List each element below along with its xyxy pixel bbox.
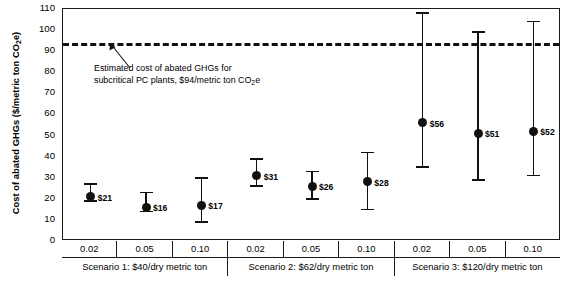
annotation-line-2: subcritical PC plants, $94/metric ton CO…	[94, 74, 260, 87]
data-point-label: $56	[430, 119, 444, 129]
error-bar-cap-top	[195, 177, 208, 179]
annotation-line-1: Estimated cost of abated GHGs for	[94, 62, 260, 74]
annotation-line-2-pre: subcritical PC plants, $94/metric ton CO	[94, 75, 251, 85]
plot-area: $21$16$17$31$26$28$56$51$52	[62, 8, 560, 240]
x-group-label: Scenario 1: $40/dry metric ton	[62, 258, 227, 276]
y-tick-label: 60	[29, 108, 55, 118]
error-bar-cap-bottom	[527, 175, 540, 177]
x-tick-label: 0.02	[394, 241, 449, 257]
data-point-marker	[308, 182, 317, 191]
data-point-label: $51	[485, 129, 499, 139]
y-tick-label: 100	[29, 24, 55, 34]
reference-line-annotation: Estimated cost of abated GHGs for subcri…	[94, 62, 260, 87]
data-point-marker	[363, 177, 372, 186]
error-bar-cap-top	[140, 192, 153, 194]
reference-line	[63, 43, 559, 46]
x-axis-tick-labels: 0.020.050.100.020.050.100.020.050.10	[62, 241, 560, 258]
y-tick-label: 70	[29, 87, 55, 97]
error-bar-line	[477, 32, 479, 180]
data-point-label: $28	[374, 178, 388, 188]
x-tick-label: 0.05	[116, 241, 171, 257]
x-tick-label: 0.02	[227, 241, 282, 257]
x-group-label: Scenario 2: $62/dry metric ton	[227, 258, 393, 276]
x-tick-label: 0.10	[338, 241, 393, 257]
error-bar-line	[422, 13, 424, 167]
error-bar-cap-top	[527, 21, 540, 23]
data-point-marker	[529, 127, 538, 136]
data-point-marker	[252, 171, 261, 180]
error-bar-cap-bottom	[195, 221, 208, 223]
y-tick-label: 90	[29, 45, 55, 55]
y-tick-label: 110	[29, 3, 55, 13]
x-tick-label: 0.05	[283, 241, 338, 257]
x-group-label: Scenario 3: $120/dry metric ton	[394, 258, 560, 276]
y-tick-label: 40	[29, 151, 55, 161]
annotation-line-2-sub: 2	[251, 79, 255, 86]
data-point-marker	[197, 201, 206, 210]
data-point-marker	[418, 118, 427, 127]
error-bar-cap-top	[84, 183, 97, 185]
error-bar-cap-top	[361, 152, 374, 154]
data-point-marker	[142, 203, 151, 212]
data-point-label: $26	[319, 182, 333, 192]
data-point-label: $31	[264, 172, 278, 182]
x-axis-caption	[62, 277, 560, 289]
y-tick-label: 0	[29, 235, 55, 245]
error-bar-cap-top	[250, 158, 263, 160]
y-tick-label: 20	[29, 193, 55, 203]
x-tick-label: 0.10	[505, 241, 560, 257]
annotation-line-2-post: e	[255, 75, 260, 85]
x-tick-label: 0.10	[172, 241, 227, 257]
error-bar-cap-bottom	[416, 166, 429, 168]
error-bar-line	[201, 178, 203, 222]
error-bar-cap-bottom	[472, 179, 485, 181]
data-point-label: $21	[98, 193, 112, 203]
y-tick-label: 80	[29, 66, 55, 76]
x-tick-label: 0.02	[62, 241, 116, 257]
y-tick-label: 30	[29, 172, 55, 182]
error-bar-cap-bottom	[361, 209, 374, 211]
x-axis-group-labels: Scenario 1: $40/dry metric tonScenario 2…	[62, 258, 560, 276]
error-bar-cap-top	[416, 12, 429, 14]
data-point-marker	[474, 129, 483, 138]
y-tick-label: 10	[29, 214, 55, 224]
data-point-label: $52	[540, 127, 554, 137]
error-bar-line	[533, 22, 535, 176]
error-bar-cap-bottom	[306, 198, 319, 200]
error-bar-cap-top	[472, 31, 485, 33]
chart-root: Cost of abated GHGs ($/metric ton CO2e) …	[0, 0, 568, 293]
data-point-label: $17	[208, 201, 222, 211]
x-tick-label: 0.05	[449, 241, 504, 257]
y-tick-label: 50	[29, 130, 55, 140]
error-bar-cap-top	[306, 171, 319, 173]
data-point-label: $16	[153, 203, 167, 213]
error-bar-cap-bottom	[250, 185, 263, 187]
